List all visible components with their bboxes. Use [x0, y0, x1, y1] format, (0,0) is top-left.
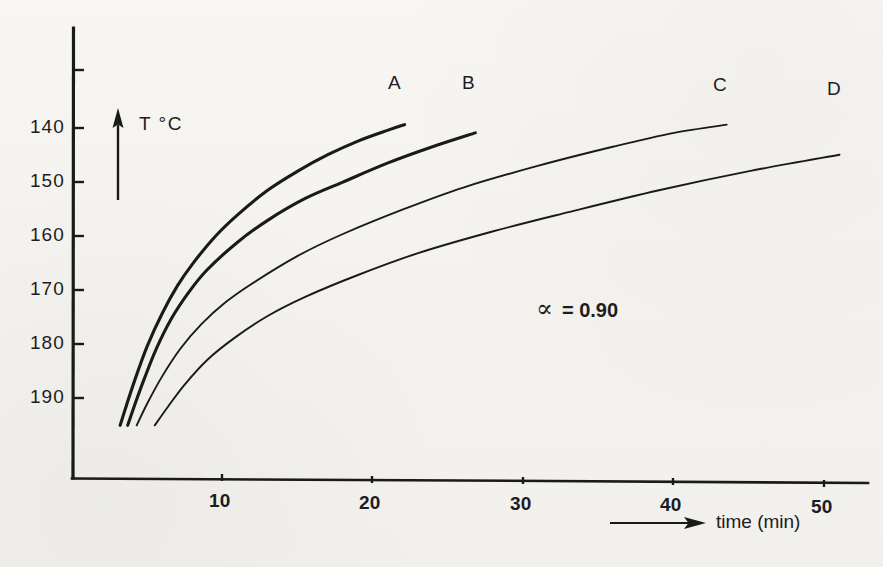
chart-plot-area: [0, 0, 883, 567]
x-tick-label-20: 20: [359, 492, 381, 514]
curve-label-a: A: [388, 72, 401, 94]
x-tick-label-30: 30: [510, 493, 532, 515]
time-axis-arrow-icon: [610, 517, 706, 529]
x-tick-label-40: 40: [660, 494, 682, 516]
curve-label-b: B: [462, 72, 475, 94]
curve-label-d: D: [827, 78, 841, 100]
alpha-symbol: ∝: [536, 294, 553, 323]
curve-a: [120, 125, 404, 426]
y-tick-label-140: 140: [30, 116, 65, 138]
curve-b: [128, 133, 476, 425]
alpha-annotation: ∝= 0.90: [536, 294, 618, 323]
y-tick-label-150: 150: [30, 170, 65, 192]
y-tick-label-170: 170: [30, 278, 65, 300]
y-axis-line: [73, 28, 74, 478]
curve-d: [155, 155, 840, 426]
x-tick-label-50: 50: [811, 496, 833, 518]
y-tick-label-190: 190: [30, 386, 65, 408]
y-axis-title: T °C: [139, 113, 183, 135]
y-tick-label-180: 180: [30, 332, 65, 354]
alpha-value: = 0.90: [562, 299, 618, 321]
data-curves: [120, 125, 839, 426]
x-axis-title: time (min): [716, 511, 800, 533]
x-axis-line: [72, 479, 868, 484]
chart-figure: 140 150 160 170 180 190 10 20 30 40 50 T…: [0, 0, 883, 567]
x-tick-label-10: 10: [209, 490, 231, 512]
y-tick-label-160: 160: [30, 224, 65, 246]
temperature-axis-arrow-icon: [113, 108, 124, 200]
curve-label-c: C: [713, 74, 727, 96]
curve-c: [137, 125, 727, 426]
